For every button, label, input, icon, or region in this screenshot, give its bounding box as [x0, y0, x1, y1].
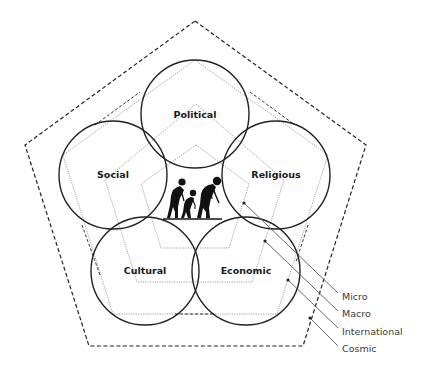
- cosmic-label: Cosmic: [342, 343, 377, 354]
- human-evolution-figures-icon: [163, 177, 222, 219]
- micro-leader-line: [244, 203, 338, 293]
- macro-leader-dot: [263, 239, 266, 242]
- international-pentagon-dashed-segment-left: [95, 92, 140, 125]
- cultural-label: Cultural: [124, 265, 167, 276]
- macro-leader-line: [265, 241, 338, 311]
- cosmic-pentagon: [25, 21, 366, 346]
- macro-label: Macro: [342, 308, 371, 319]
- international-pentagon: [63, 60, 328, 314]
- international-leader-dot: [286, 278, 289, 281]
- political-label: Political: [173, 109, 216, 120]
- social-levels-diagram: Political Social Religious Cultural Econ…: [0, 0, 422, 375]
- cosmic-leader-line: [310, 318, 338, 346]
- economic-label: Economic: [221, 265, 272, 276]
- micro-leader-dot: [242, 201, 245, 204]
- religious-label: Religious: [251, 169, 301, 180]
- figure-right-icon: [197, 177, 221, 218]
- international-label: International: [342, 326, 403, 337]
- micro-label: Micro: [342, 291, 368, 302]
- figure-middle-icon: [181, 190, 196, 218]
- micro-pentagon: [141, 145, 249, 248]
- international-pentagon-dashed-segment-right: [250, 92, 295, 125]
- figure-left-icon: [167, 178, 186, 218]
- cosmic-leader-dot: [308, 316, 311, 319]
- social-label: Social: [97, 169, 129, 180]
